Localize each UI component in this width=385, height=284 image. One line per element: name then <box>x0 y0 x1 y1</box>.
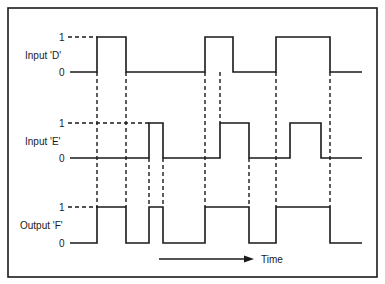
signal-output-f: Output 'F' 1 0 <box>20 202 362 249</box>
alignment-guides <box>97 72 330 207</box>
signal-input-d: Input 'D' 1 0 <box>25 32 362 78</box>
level-high-label-d: 1 <box>59 32 65 43</box>
signal-label-e: Input 'E' <box>25 136 61 147</box>
signal-input-e: Input 'E' 1 0 <box>25 118 362 164</box>
signal-label-f: Output 'F' <box>20 220 63 231</box>
time-axis: Time <box>159 254 283 265</box>
level-high-label-f: 1 <box>59 202 65 213</box>
level-low-label-f: 0 <box>59 238 65 249</box>
waveform-e <box>70 123 362 158</box>
waveform-f <box>70 207 362 243</box>
level-low-label-e: 0 <box>59 153 65 164</box>
level-low-label-d: 0 <box>59 67 65 78</box>
arrow-right-icon <box>244 256 254 263</box>
timing-diagram: Input 'D' 1 0 Input 'E' 1 0 Output 'F' 1… <box>0 0 385 284</box>
waveform-d <box>70 37 362 72</box>
signal-label-d: Input 'D' <box>25 50 61 61</box>
time-axis-label: Time <box>261 254 283 265</box>
level-high-label-e: 1 <box>59 118 65 129</box>
